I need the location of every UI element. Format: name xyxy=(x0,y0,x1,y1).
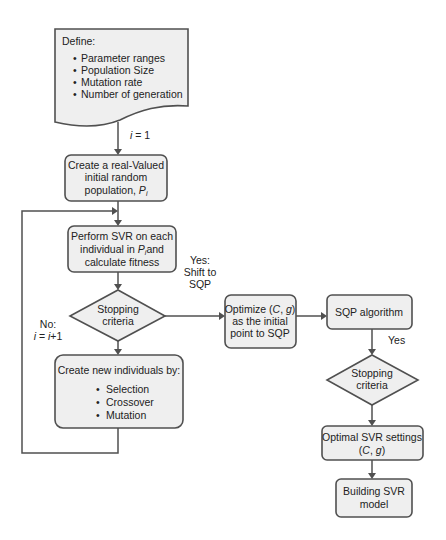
bullet: • xyxy=(96,383,100,395)
bullet: • xyxy=(73,88,77,100)
node-text: Building SVR xyxy=(343,485,405,497)
define-item: Mutation rate xyxy=(81,76,142,88)
bullet: • xyxy=(73,52,77,64)
node-text: Optimize (C, g) xyxy=(225,303,296,315)
init-population-node: Create a real-Valued initial random popu… xyxy=(65,155,167,201)
node-text: point to SQP xyxy=(230,327,290,339)
edge-sqp-to-stop2: Yes xyxy=(368,329,405,355)
define-item: Parameter ranges xyxy=(81,52,165,64)
edge-perform-to-stop1 xyxy=(114,272,122,290)
node-text: population, Pi xyxy=(85,184,148,197)
edge-init-to-perform xyxy=(114,201,122,226)
node-text: Optimal SVR settings xyxy=(322,431,422,443)
node-text: individual in Piand xyxy=(80,243,164,256)
edge-label-yes: Shift to xyxy=(184,266,217,278)
node-text: Mutation xyxy=(106,409,146,421)
build-svr-model-node: Building SVR model xyxy=(336,479,412,517)
node-text: criteria xyxy=(356,379,388,391)
node-text: (C, g) xyxy=(359,444,385,456)
edge-label-i-eq-1: i = 1 xyxy=(130,129,150,141)
optimal-settings-node: Optimal SVR settings (C, g) xyxy=(322,426,423,460)
edge-label-no: No: xyxy=(40,318,56,330)
define-title: Define: xyxy=(62,35,95,47)
edge-label-yes: Yes xyxy=(388,334,405,346)
edge-label-yes: Yes: xyxy=(190,254,210,266)
bullet: • xyxy=(96,396,100,408)
node-text: model xyxy=(360,498,389,510)
optimize-node: Optimize (C, g) as the initial point to … xyxy=(225,295,296,348)
perform-svr-node: Perform SVR on each individual in Piand … xyxy=(68,226,176,272)
node-text: calculate fitness xyxy=(85,256,160,268)
edge-stop2-to-optimal xyxy=(368,405,376,426)
node-text: Perform SVR on each xyxy=(71,230,173,242)
sqp-algorithm-node: SQP algorithm xyxy=(327,295,412,329)
node-text: Crossover xyxy=(106,396,154,408)
edge-optimal-to-build xyxy=(368,460,376,479)
edge-label-no: i = i+1 xyxy=(34,330,63,342)
node-text: as the initial xyxy=(232,315,287,327)
stopping-criteria-2-node: Stopping criteria xyxy=(327,355,418,405)
edge-define-to-init: i = 1 xyxy=(114,122,150,155)
define-item: Number of generation xyxy=(81,88,183,100)
new-individuals-node: Create new individuals by: • Selection •… xyxy=(55,355,183,428)
node-text: Stopping xyxy=(97,303,139,315)
node-text: criteria xyxy=(102,315,134,327)
flowchart-canvas: Define: • Parameter ranges • Population … xyxy=(0,0,446,540)
node-text: Create a real-Valued xyxy=(68,159,164,171)
node-text: Stopping xyxy=(351,367,393,379)
bullet: • xyxy=(96,409,100,421)
edge-label-yes: SQP xyxy=(189,278,211,290)
node-text: Selection xyxy=(106,383,149,395)
bullet: • xyxy=(73,76,77,88)
node-text: initial random xyxy=(85,171,148,183)
stopping-criteria-1-node: Stopping criteria xyxy=(70,290,165,341)
node-text: SQP algorithm xyxy=(335,306,403,318)
bullet: • xyxy=(73,64,77,76)
define-node: Define: • Parameter ranges • Population … xyxy=(55,29,188,126)
edge-optimize-to-sqp xyxy=(296,312,327,320)
define-item: Population Size xyxy=(81,64,154,76)
node-text: Create new individuals by: xyxy=(58,364,181,376)
